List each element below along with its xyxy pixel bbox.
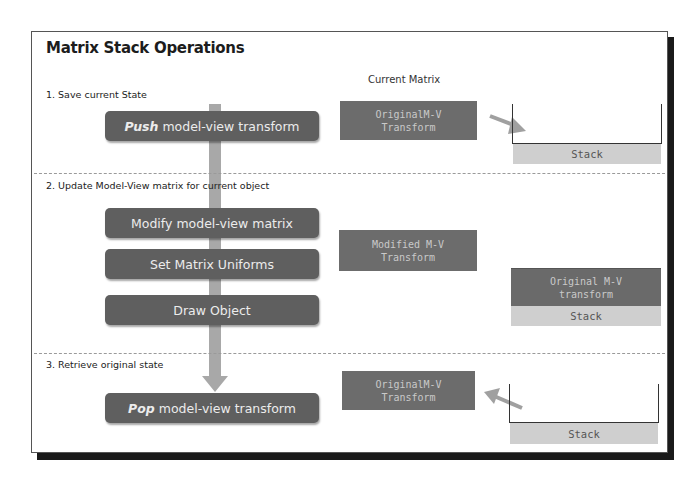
matrix-line-2: Transform: [381, 121, 435, 134]
set-uniforms-step-box: Set Matrix Uniforms: [105, 249, 319, 279]
stack-entry-line-2: transform: [559, 288, 613, 301]
set-uniforms-step-text: Set Matrix Uniforms: [150, 257, 274, 272]
stack-entry-original-mv: Original M-V transform: [511, 268, 661, 306]
current-matrix-box-1: OriginalM-V Transform: [340, 101, 477, 140]
stack-label-3: Stack: [510, 423, 658, 444]
current-matrix-box-2: Modified M-V Transform: [339, 230, 477, 271]
push-keyword: Push: [124, 119, 158, 134]
flow-arrow-shaft: [209, 104, 221, 378]
flow-arrow-head-icon: [202, 376, 228, 392]
section-3-label: 3. Retrieve original state: [46, 359, 163, 370]
diagram-title: Matrix Stack Operations: [46, 39, 244, 57]
modify-step-text: Modify model-view matrix: [131, 216, 293, 231]
pop-step-text: model-view transform: [159, 401, 296, 416]
draw-object-step-text: Draw Object: [173, 303, 250, 318]
section-divider-1: [34, 173, 665, 174]
push-step-box: Push model-view transform: [105, 111, 319, 141]
section-1-label: 1. Save current State: [46, 89, 147, 100]
section-divider-2: [34, 353, 665, 354]
matrix-line-1: OriginalM-V: [375, 108, 441, 121]
stack-entry-line-1: Original M-V: [550, 275, 622, 288]
current-matrix-box-3: OriginalM-V Transform: [342, 371, 475, 410]
stack-label-1: Stack: [513, 144, 661, 164]
pop-step-box: Pop model-view transform: [105, 393, 319, 423]
modify-matrix-step-box: Modify model-view matrix: [105, 208, 319, 238]
diagram-frame: Matrix Stack Operations Current Matrix 1…: [31, 31, 668, 453]
stack-container-3: [509, 384, 659, 423]
pop-keyword: Pop: [128, 401, 155, 416]
section-2-label: 2. Update Model-View matrix for current …: [46, 180, 269, 191]
matrix-line-2: Transform: [381, 391, 435, 404]
draw-object-step-box: Draw Object: [105, 295, 319, 325]
stack-label-2: Stack: [511, 306, 661, 326]
matrix-line-1: OriginalM-V: [375, 378, 441, 391]
push-step-text: model-view transform: [162, 119, 299, 134]
current-matrix-header: Current Matrix: [368, 74, 440, 85]
matrix-line-1: Modified M-V: [372, 238, 444, 251]
matrix-line-2: Transform: [381, 251, 435, 264]
stack-container-1: [512, 104, 662, 144]
